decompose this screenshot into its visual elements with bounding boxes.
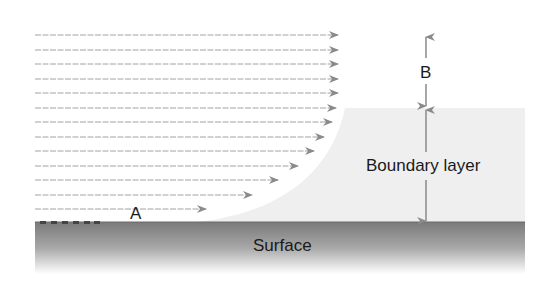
label-b: B	[420, 63, 431, 83]
label-surface: Surface	[253, 236, 312, 256]
label-a: A	[130, 204, 141, 224]
boundary-layer-diagram: B Boundary layer A Surface	[0, 0, 555, 288]
flow-arrows	[35, 35, 338, 209]
label-boundary-layer: Boundary layer	[366, 156, 480, 176]
